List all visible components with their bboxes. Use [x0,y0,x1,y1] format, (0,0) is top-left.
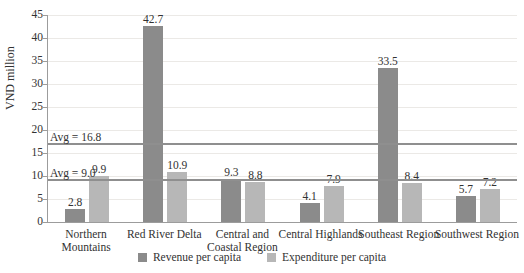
bar-group: 33.58.4 [361,15,439,222]
bar [402,183,422,222]
bar-value-label: 10.9 [167,159,187,171]
bar [221,179,241,222]
average-line-label: Avg = 9.0 [50,167,96,179]
category-label: Southeast Region [356,228,442,241]
y-tick-mark [42,153,47,154]
bar [456,196,476,222]
bar-column: 42.7 [143,13,163,222]
y-tick-label: 45 [13,8,43,20]
y-tick-mark [42,15,47,16]
bar-column: 8.8 [245,169,265,222]
average-line [48,143,517,145]
y-tick-mark [42,199,47,200]
y-tick-label: 35 [13,54,43,66]
average-line [48,179,517,181]
y-tick-mark [42,61,47,62]
bar-column: 5.7 [456,183,476,222]
bar-column: 2.8 [65,196,85,222]
y-tick-label: 10 [13,169,43,181]
y-tick-label: 40 [13,31,43,43]
bar-column: 10.9 [167,159,187,222]
bar-value-label: 9.3 [224,166,238,178]
bar [378,68,398,222]
legend-swatch [138,253,147,262]
legend-swatch [267,253,276,262]
bar [480,189,500,222]
y-tick-mark [42,84,47,85]
legend-item: Expenditure per capita [267,251,386,263]
bar-group: 4.17.9 [283,15,361,222]
bar [300,203,320,222]
bar-value-label: 2.8 [68,196,82,208]
bar [143,26,163,222]
bar [89,176,109,222]
bar-group: 2.89.9 [48,15,126,222]
bar-column: 33.5 [378,55,398,222]
category-label: Central and Coastal Region [199,228,285,254]
y-tick-label: 0 [13,215,43,227]
bar-group: 42.710.9 [126,15,204,222]
bar-group: 5.77.2 [439,15,517,222]
legend-label: Revenue per capita [153,251,241,263]
average-line-label: Avg = 16.8 [50,131,101,143]
category-label: Northern Mountains [43,228,129,254]
bar-column: 9.3 [221,166,241,222]
category-label: Central Highlands [278,228,364,241]
y-tick-mark [42,38,47,39]
category-label: Red River Delta [121,228,207,241]
y-tick-mark [42,222,47,223]
bar-column: 7.2 [480,176,500,222]
plot-area: 2.89.942.710.99.38.84.17.933.58.45.77.2A… [47,15,517,223]
bar-value-label: 33.5 [378,55,398,67]
y-tick-mark [42,107,47,108]
y-tick-mark [42,130,47,131]
bar-chart: VND million 2.89.942.710.99.38.84.17.933… [0,0,524,273]
category-label: Southwest Region [434,228,520,241]
bar-column: 4.1 [300,190,320,222]
legend-item: Revenue per capita [138,251,241,263]
legend-label: Expenditure per capita [282,251,386,263]
bar-group: 9.38.8 [204,15,282,222]
y-tick-label: 20 [13,123,43,135]
y-tick-label: 5 [13,192,43,204]
bar-value-label: 4.1 [302,190,316,202]
bar [65,209,85,222]
y-tick-label: 25 [13,100,43,112]
bar [324,186,344,222]
y-tick-label: 15 [13,146,43,158]
y-tick-label: 30 [13,77,43,89]
bar-value-label: 5.7 [459,183,473,195]
bar-value-label: 42.7 [143,13,163,25]
y-tick-mark [42,176,47,177]
legend: Revenue per capitaExpenditure per capita [0,251,524,263]
bar [245,182,265,222]
